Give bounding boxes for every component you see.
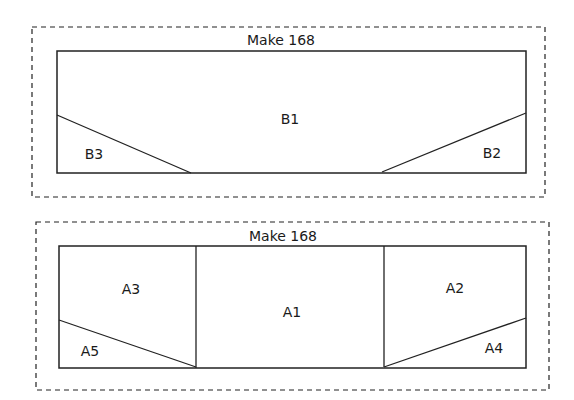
panel-b: Make 168 B1 B2 B3 xyxy=(32,27,545,197)
seam-line-b3 xyxy=(57,115,191,173)
piece-label-a1: A1 xyxy=(283,304,301,320)
piece-label-b2: B2 xyxy=(483,145,502,161)
piece-label-b3: B3 xyxy=(85,146,104,162)
quilt-block-diagram: Make 168 B1 B2 B3 Make 168 A1 A2 A3 A4 A… xyxy=(0,0,574,400)
panel-a: Make 168 A1 A2 A3 A4 A5 xyxy=(36,222,549,390)
piece-label-a4: A4 xyxy=(485,340,504,356)
panel-title: Make 168 xyxy=(249,228,317,244)
seam-line-a4 xyxy=(384,318,526,367)
seam-line-b2 xyxy=(382,113,526,172)
seam-line-a5 xyxy=(59,320,196,367)
piece-label-b1: B1 xyxy=(281,111,300,127)
piece-label-a3: A3 xyxy=(122,281,140,297)
piece-label-a5: A5 xyxy=(81,343,99,359)
panel-title: Make 168 xyxy=(247,32,315,48)
piece-label-a2: A2 xyxy=(446,280,464,296)
